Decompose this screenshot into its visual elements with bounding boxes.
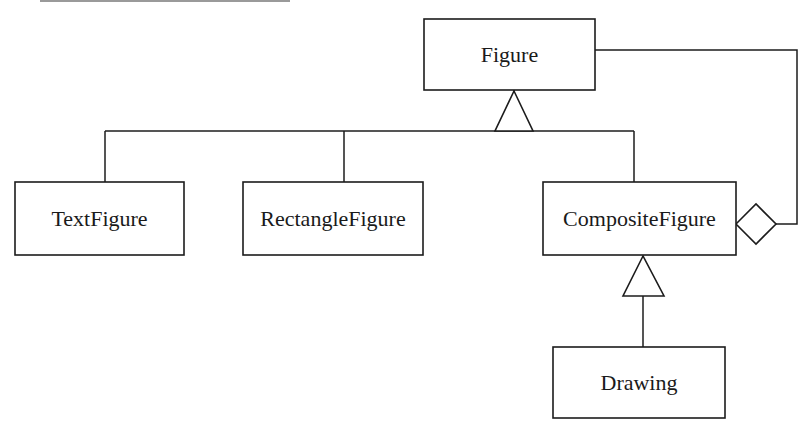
class-name: Figure bbox=[481, 42, 538, 67]
generalization-triangle-icon bbox=[495, 91, 533, 131]
class-compositefigure: CompositeFigure bbox=[543, 182, 736, 255]
class-name: Drawing bbox=[601, 370, 678, 395]
cropped-text-line bbox=[40, 0, 290, 2]
class-rectanglefigure: RectangleFigure bbox=[243, 182, 423, 255]
aggregation-diamond-icon bbox=[736, 204, 776, 244]
class-name: TextFigure bbox=[51, 206, 147, 231]
uml-diagram: Figure TextFigure RectangleFigure Compos… bbox=[0, 0, 807, 427]
class-drawing: Drawing bbox=[553, 347, 725, 418]
class-textfigure: TextFigure bbox=[15, 182, 184, 255]
class-name: CompositeFigure bbox=[563, 206, 716, 231]
class-name: RectangleFigure bbox=[260, 206, 405, 231]
drawing-generalization-triangle-icon bbox=[623, 256, 664, 296]
class-figure: Figure bbox=[424, 19, 595, 90]
